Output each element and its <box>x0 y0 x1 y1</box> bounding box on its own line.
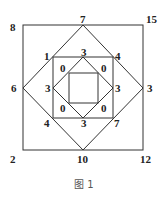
label-inner-bottom-left: 0 <box>60 102 66 114</box>
label-outer-bottom-right: 12 <box>140 153 152 165</box>
label-inner-top-left: 0 <box>60 62 66 74</box>
label-outer-top-left: 8 <box>10 21 16 33</box>
label-middle-bottom-mid: 3 <box>81 117 87 129</box>
label-middle-left-mid: 3 <box>45 82 51 94</box>
outer-diamond <box>23 25 143 150</box>
outer-square <box>23 25 143 150</box>
label-middle-bottom-left: 4 <box>44 117 50 129</box>
label-outer-left-mid: 6 <box>11 82 17 94</box>
label-outer-top-right: 15 <box>146 13 158 25</box>
inner-square <box>69 73 98 103</box>
label-outer-top-mid: 7 <box>80 13 86 25</box>
label-middle-top-right: 4 <box>115 50 121 62</box>
nested-squares-diagram: 8 15 2 12 7 3 10 6 1 4 4 7 3 3 3 3 0 0 0… <box>0 0 168 197</box>
label-outer-bottom-left: 2 <box>10 153 16 165</box>
label-middle-top-left: 1 <box>44 50 50 62</box>
label-inner-top-right: 0 <box>101 62 107 74</box>
figure-caption: 图 1 <box>74 179 94 190</box>
label-outer-bottom-mid: 10 <box>77 153 89 165</box>
label-middle-bottom-right: 7 <box>114 117 120 129</box>
label-middle-right-mid: 3 <box>115 82 121 94</box>
label-outer-right-mid: 3 <box>147 82 153 94</box>
label-middle-top-mid: 3 <box>81 46 87 58</box>
label-inner-bottom-right: 0 <box>101 102 107 114</box>
